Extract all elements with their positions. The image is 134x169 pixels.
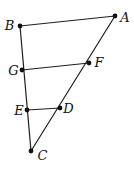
point-G-label: G [8, 63, 18, 78]
point-E-dot [25, 108, 30, 113]
point-A-dot [113, 14, 118, 19]
point-A-label: A [119, 10, 129, 25]
point-F-dot [87, 61, 92, 66]
point-E-label: E [13, 103, 24, 118]
segment-BC [20, 26, 31, 151]
point-D-label: D [62, 101, 74, 116]
segment-GF [22, 63, 89, 70]
geometry-figure-canvas: BAGFEDC [0, 0, 134, 169]
point-C-dot [29, 149, 34, 154]
point-G-dot [20, 68, 25, 73]
segment-ED [27, 108, 60, 110]
point-F-label: F [93, 55, 104, 70]
point-C-label: C [38, 148, 48, 163]
point-B-dot [18, 24, 23, 29]
point-D-dot [58, 106, 63, 111]
point-B-label: B [4, 18, 15, 33]
segment-BA [20, 16, 115, 26]
segment-AC [31, 16, 115, 151]
geometry-diagram: BAGFEDC [0, 0, 134, 169]
